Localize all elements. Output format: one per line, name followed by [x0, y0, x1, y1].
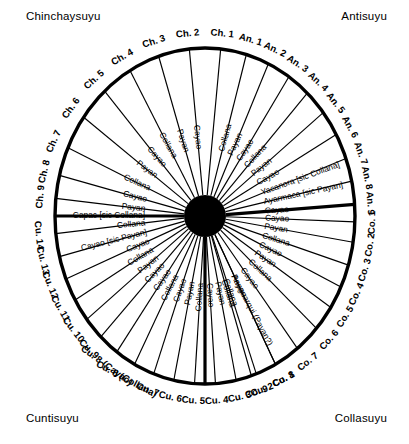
radial-wheel: CayaoPayanCollanaCayaoPayanCollanaCayaoP…: [0, 0, 409, 444]
ray-number-label: An. 1: [238, 31, 264, 48]
ray-number-label: Co. 2: [362, 232, 377, 257]
ray-number-label: Ch. 5: [81, 67, 106, 91]
ray-number-label: Cu. 5: [181, 394, 206, 407]
ray-number-label: An. 2: [262, 39, 288, 59]
inner-stratum-label: Collana: [193, 282, 205, 311]
ray-number-label: An. 4: [306, 69, 331, 93]
ray-number-label: Co. 7: [295, 350, 320, 373]
ray-number-label: Ch. 1: [210, 26, 235, 39]
ray-number-label: Ch. 7: [43, 128, 63, 154]
ray-number-label: An. 8: [360, 165, 376, 191]
ray-number-label: An. 5: [324, 90, 348, 116]
ray-number-label: Co. 4: [346, 280, 366, 307]
ray-number-label: Ch. 4: [109, 46, 135, 68]
ray-number-label: Cu. 4: [205, 394, 230, 407]
ray-number-label: Ch. 9: [33, 185, 46, 209]
ray-number-label: Ch. 8: [36, 158, 53, 184]
ray-line: [226, 204, 355, 214]
ray-number-label: Ch. 2: [175, 26, 199, 39]
ray-number-label: An. 6: [340, 114, 361, 140]
ray-line: [226, 217, 355, 222]
ray-number-label: Ch. 3: [141, 32, 167, 50]
ray-number-label: Co. 8: [270, 368, 296, 389]
ray-number-label: An. 9: [365, 191, 378, 215]
ray-number-label: Co. 9: [244, 382, 270, 400]
ray-line: [207, 49, 220, 195]
inner-stratum-label: Cayao: [264, 204, 289, 216]
ray-number-label: Co. 6: [317, 327, 341, 352]
inner-stratum-label: Cayao: [192, 124, 205, 149]
ray-number-label: Co. 5: [334, 303, 356, 329]
ray-number-label: Cu. 6: [158, 388, 183, 404]
ray-number-label: Ch. 6: [59, 95, 82, 120]
ray-number-label: Co. 3: [355, 257, 372, 283]
center-hub: [184, 195, 226, 237]
ray-line: [189, 49, 202, 195]
ray-number-label: An. 3: [285, 52, 311, 74]
ceque-system-diagram: Chinchaysuyu Antisuyu Cuntisuyu Collasuy…: [0, 0, 409, 444]
ray-number-label: An. 7: [352, 140, 370, 166]
